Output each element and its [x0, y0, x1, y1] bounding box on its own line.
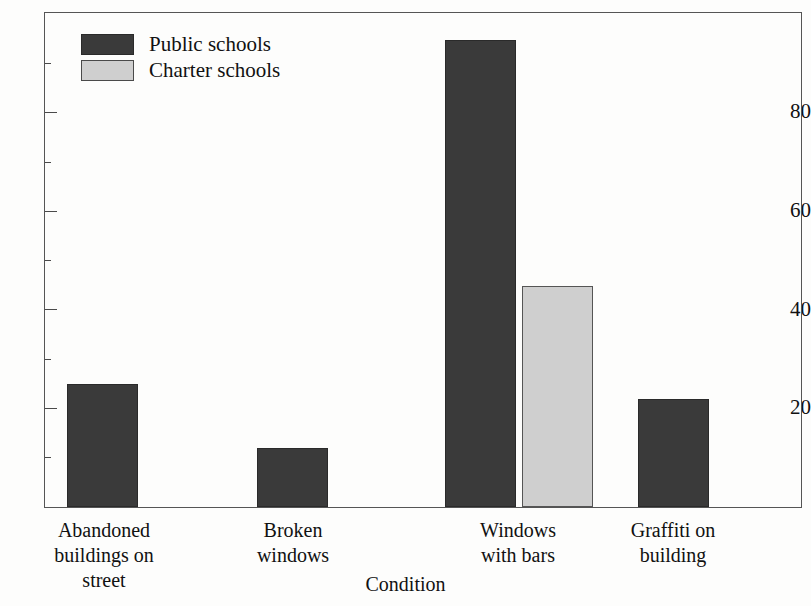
public-schools-swatch-icon: [81, 34, 134, 55]
x-axis-label-windows-with-bars: Windows with bars: [441, 518, 595, 568]
x-axis-label-line: Abandoned: [27, 518, 181, 543]
x-axis-title: Condition: [0, 572, 811, 596]
x-axis-label-line: with bars: [441, 543, 595, 568]
x-axis-label-line: Windows: [441, 518, 595, 543]
x-axis-label-line: Broken: [216, 518, 370, 543]
plot-area: Public schools Charter schools: [44, 12, 802, 508]
x-axis-label-line: building: [596, 543, 750, 568]
bar-public-graffiti-on-building: [638, 399, 709, 507]
bar-public-windows-with-bars: [445, 40, 516, 507]
legend-label-charter-schools: Charter schools: [149, 60, 280, 81]
x-axis-label-line: Graffiti on: [596, 518, 750, 543]
legend-label-public-schools: Public schools: [149, 34, 271, 55]
legend-item-charter-schools: Charter schools: [81, 57, 280, 83]
bar-public-abandoned-buildings: [67, 384, 138, 507]
x-axis-label-graffiti-on-building: Graffiti on building: [596, 518, 750, 568]
x-axis-label-line: windows: [216, 543, 370, 568]
charter-schools-swatch-icon: [81, 60, 134, 81]
x-axis-label-line: buildings on: [27, 543, 181, 568]
bar-charter-windows-with-bars: [522, 286, 593, 507]
legend-item-public-schools: Public schools: [81, 31, 280, 57]
bar-public-broken-windows: [257, 448, 328, 507]
chart-legend: Public schools Charter schools: [81, 31, 280, 83]
bar-chart-figure: 80 60 40 20 Public schools Charter schoo…: [0, 0, 811, 606]
x-axis-label-broken-windows: Broken windows: [216, 518, 370, 568]
